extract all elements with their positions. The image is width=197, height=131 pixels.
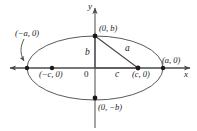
label-top-covertex: (0, b) — [99, 24, 117, 33]
label-focal-radius: a — [125, 44, 130, 54]
origin-label: 0 — [84, 70, 89, 79]
point-bottom-covertex — [93, 96, 98, 101]
point-right-vertex — [161, 66, 165, 70]
label-right-focus: (c, 0) — [132, 70, 150, 79]
label-bottom-covertex: (0, −b) — [98, 103, 122, 112]
point-top-covertex — [93, 34, 98, 39]
x-axis-label: x — [184, 70, 188, 79]
ellipse-figure: y x 0 (0, b) (0, −b) (a, 0) (−a, 0) (c, … — [0, 0, 197, 131]
y-axis-label: y — [88, 2, 92, 11]
leader-arrow-left-vertex — [21, 39, 24, 61]
label-focal-distance: c — [115, 70, 119, 80]
label-right-vertex: (a, 0) — [162, 56, 180, 65]
label-left-focus: (−c, 0) — [39, 70, 63, 79]
label-semi-minor: b — [85, 48, 90, 58]
label-left-vertex: (−a, 0) — [15, 29, 39, 38]
point-left-vertex — [25, 66, 29, 70]
